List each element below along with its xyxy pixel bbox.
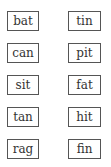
word-box-left-5: rag — [7, 139, 39, 159]
word-box-right-5: fin — [68, 139, 101, 159]
word-box-left-1: bat — [7, 11, 39, 31]
word-box-right-4: hit — [68, 107, 101, 127]
word-box-right-2: pit — [68, 43, 101, 63]
word-box-left-4: tan — [7, 107, 39, 127]
word-box-left-3: sit — [7, 75, 39, 95]
word-box-right-1: tin — [68, 11, 101, 31]
word-box-right-3: fat — [68, 75, 101, 95]
word-box-left-2: can — [7, 43, 39, 63]
